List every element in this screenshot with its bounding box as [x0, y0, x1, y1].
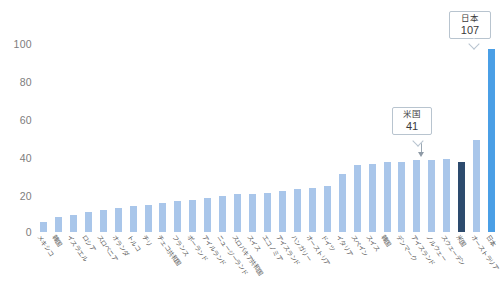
bar-7[interactable]: [145, 205, 152, 232]
bar-slot: [350, 44, 365, 232]
y-tick-100: 100: [14, 38, 32, 50]
bar-slot: [111, 44, 126, 232]
bar-23[interactable]: [384, 162, 391, 232]
callout-japan-value: 107: [455, 24, 485, 37]
bar-slot: [96, 44, 111, 232]
bar-slot: [454, 44, 469, 232]
bar-1[interactable]: [55, 217, 62, 232]
bar-11[interactable]: [204, 198, 211, 232]
bar-3[interactable]: [85, 212, 92, 233]
bar-slot: [126, 44, 141, 232]
bar-15[interactable]: [264, 193, 271, 232]
y-axis: 100 80 60 40 20 0: [0, 0, 36, 294]
bar-slot: [439, 44, 454, 232]
bar-25[interactable]: [413, 160, 420, 232]
bar-slot: [200, 44, 215, 232]
bar-13[interactable]: [234, 194, 241, 232]
bar-slot: [156, 44, 171, 232]
x-label-28: 米国: [454, 234, 466, 248]
bar-21[interactable]: [354, 165, 361, 232]
x-label-7: チリ: [141, 234, 153, 248]
bar-slot: [335, 44, 350, 232]
bar-slot: [320, 44, 335, 232]
bar-26[interactable]: [428, 160, 435, 232]
y-tick-20: 20: [20, 190, 32, 202]
bar-slot: [185, 44, 200, 232]
bar-slot: [81, 44, 96, 232]
x-axis-labels: メキシコ韓国イスラエルロシアスロベニアオランダトルコチリチェコ共和国フランスポー…: [36, 234, 499, 294]
bar-slot: [305, 44, 320, 232]
bar-slot: [141, 44, 156, 232]
bar-slot: [484, 44, 499, 232]
callout-us-label: 米国: [398, 110, 426, 120]
bar-20[interactable]: [339, 174, 346, 232]
y-tick-80: 80: [20, 76, 32, 88]
bar-6[interactable]: [130, 206, 137, 232]
bar-9[interactable]: [174, 201, 181, 232]
bar-slot: [215, 44, 230, 232]
bar-slot: [424, 44, 439, 232]
bar-slot: [170, 44, 185, 232]
bar-29[interactable]: [473, 140, 480, 232]
y-tick-40: 40: [20, 152, 32, 164]
us-callout-arrow: [418, 152, 424, 157]
bar-slot: [66, 44, 81, 232]
x-label-30: 日本: [484, 234, 496, 248]
bar-slot: [365, 44, 380, 232]
bar-27[interactable]: [443, 159, 450, 232]
bar-18[interactable]: [309, 188, 316, 232]
bar-slot: [395, 44, 410, 232]
bar-2[interactable]: [70, 215, 77, 232]
x-label-1: 韓国: [51, 234, 63, 248]
plot-area: [36, 44, 499, 232]
bar-12[interactable]: [219, 196, 226, 232]
callout-us-value: 41: [398, 120, 426, 133]
y-tick-60: 60: [20, 114, 32, 126]
bar-slot: [469, 44, 484, 232]
bar-5[interactable]: [115, 208, 122, 232]
bar-slot: [380, 44, 395, 232]
bar-8[interactable]: [159, 203, 166, 232]
bar-28[interactable]: [458, 162, 465, 232]
bar-10[interactable]: [189, 200, 196, 232]
bar-22[interactable]: [369, 164, 376, 232]
x-label-23: 韓国: [380, 234, 392, 248]
bar-17[interactable]: [294, 189, 301, 232]
bar-slot: [245, 44, 260, 232]
bar-4[interactable]: [100, 210, 107, 232]
bar-19[interactable]: [324, 186, 331, 232]
callout-united-states: 米国 41: [392, 107, 432, 135]
bar-slot: [275, 44, 290, 232]
bar-24[interactable]: [398, 162, 405, 232]
bar-series: [36, 44, 499, 232]
callout-japan: 日本 107: [449, 11, 491, 39]
bar-slot: [260, 44, 275, 232]
bar-chart: 100 80 60 40 20 0 メキシコ韓国イスラエルロシアスロベニアオラン…: [0, 0, 503, 294]
callout-japan-label: 日本: [455, 14, 485, 24]
bar-slot: [51, 44, 66, 232]
bar-14[interactable]: [249, 194, 256, 232]
bar-0[interactable]: [40, 222, 47, 232]
bar-slot: [290, 44, 305, 232]
bar-16[interactable]: [279, 191, 286, 232]
bar-slot: [36, 44, 51, 232]
bar-30[interactable]: [488, 49, 495, 232]
bar-slot: [230, 44, 245, 232]
y-tick-0: 0: [26, 226, 32, 238]
